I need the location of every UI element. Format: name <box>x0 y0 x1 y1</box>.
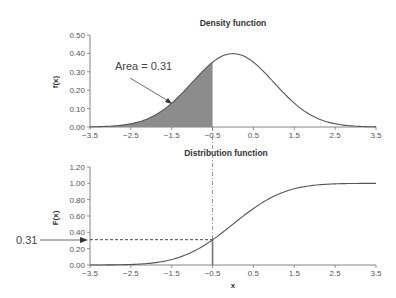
x-tick-label: 0.5 <box>248 269 260 278</box>
x-tick-label: 3.5 <box>370 269 382 278</box>
area-annotation: Area = 0.31 <box>115 60 172 72</box>
y-tick-label: 0.20 <box>69 86 85 95</box>
y-tick-label: 1.20 <box>69 163 85 172</box>
y-tick-label: 0.80 <box>69 196 85 205</box>
distribution-curve <box>90 183 376 265</box>
cdf-arrow-head-icon <box>80 237 88 243</box>
x-tick-label: −1.5 <box>164 131 180 140</box>
area-arrow-line <box>130 78 170 102</box>
area-arrow-head-icon <box>165 98 172 104</box>
x-tick-label: −2.5 <box>123 269 139 278</box>
x-tick-label: −2.5 <box>123 131 139 140</box>
distribution-ylabel: F(x) <box>51 210 60 225</box>
x-tick-label: −1.5 <box>164 269 180 278</box>
distribution-xlabel: x <box>231 281 236 290</box>
y-tick-label: 0.30 <box>69 68 85 77</box>
x-tick-label: 2.5 <box>330 131 342 140</box>
x-tick-label: −0.5 <box>205 269 221 278</box>
y-tick-label: 0.40 <box>69 49 85 58</box>
x-tick-label: 3.5 <box>370 131 382 140</box>
y-tick-label: 0.50 <box>69 31 85 40</box>
distribution-title: Distribution function <box>184 148 268 158</box>
x-tick-label: 0.5 <box>248 131 260 140</box>
x-tick-label: 1.5 <box>289 131 301 140</box>
chart-canvas: Density function Distribution function f… <box>0 0 396 298</box>
cdf-value-annotation: 0.31 <box>16 234 37 246</box>
x-tick-label: 2.5 <box>330 269 342 278</box>
density-title: Density function <box>200 18 267 28</box>
y-tick-label: 1.00 <box>69 179 85 188</box>
y-tick-label: 0.60 <box>69 212 85 221</box>
density-plot: 0.000.100.200.300.400.50−3.5−2.5−1.5−0.5… <box>69 31 382 140</box>
y-tick-label: 0.20 <box>69 245 85 254</box>
x-tick-label: 1.5 <box>289 269 301 278</box>
y-tick-label: 0.40 <box>69 228 85 237</box>
y-tick-label: 0.10 <box>69 105 85 114</box>
x-tick-label: −3.5 <box>82 131 98 140</box>
x-tick-label: −3.5 <box>82 269 98 278</box>
density-ylabel: f(x) <box>51 75 60 88</box>
